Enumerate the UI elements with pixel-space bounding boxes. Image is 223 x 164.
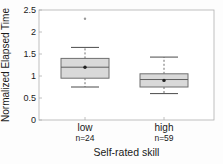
group-high-category-label: high (155, 122, 174, 133)
group-high-mean-marker (162, 79, 165, 82)
group-low-mean-marker (83, 66, 86, 69)
group-low-category-label: low (77, 122, 93, 133)
y-tick-label: 2.5 (23, 5, 36, 15)
y-tick-label: 1.5 (23, 49, 36, 59)
y-tick-label: 0.5 (23, 93, 36, 103)
boxplot-figure: 00.511.522.5lown=24highn=59Self-rated sk… (0, 0, 223, 164)
group-low-outlier-marker (84, 18, 86, 20)
y-axis-title: Normalized Elapsed Time (0, 8, 11, 122)
boxplot-chart: 00.511.522.5lown=24highn=59Self-rated sk… (0, 0, 223, 164)
y-tick-label: 0 (31, 115, 36, 125)
y-tick-label: 1 (31, 71, 36, 81)
group-high-n-label: n=59 (154, 133, 173, 143)
y-tick-label: 2 (31, 27, 36, 37)
group-low-n-label: n=24 (75, 133, 94, 143)
x-axis-title: Self-rated skill (94, 146, 160, 158)
